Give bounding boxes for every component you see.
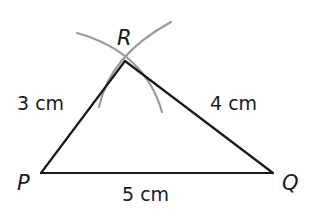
diagram-canvas: R P Q 3 cm 4 cm 5 cm bbox=[0, 0, 320, 219]
vertex-label-r: R bbox=[117, 26, 132, 50]
side-pr bbox=[41, 61, 125, 173]
side-label-pr: 3 cm bbox=[17, 92, 64, 114]
triangle-construction-diagram: R P Q 3 cm 4 cm 5 cm bbox=[0, 0, 320, 219]
side-label-pq: 5 cm bbox=[122, 183, 169, 205]
side-rq bbox=[125, 61, 273, 173]
side-label-rq: 4 cm bbox=[210, 92, 257, 114]
vertex-label-q: Q bbox=[282, 171, 299, 195]
vertex-label-p: P bbox=[17, 171, 30, 195]
